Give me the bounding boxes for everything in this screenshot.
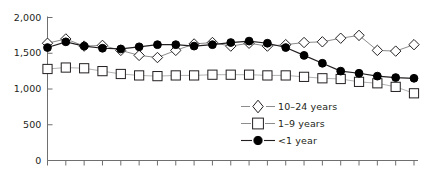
y-axis-tick-label: 2,000 <box>0 13 42 23</box>
line-chart: 2,0001,5001,0005000 10–24 years <box>0 0 422 176</box>
legend-label: 1–9 years <box>278 118 325 129</box>
series-open-square <box>43 63 419 98</box>
chart-series-layer <box>42 30 419 98</box>
legend-label: 10–24 years <box>278 101 337 112</box>
open-square-icon <box>238 115 278 132</box>
legend-label: <1 year <box>278 135 317 146</box>
y-axis-tick-label: 500 <box>0 120 42 130</box>
y-axis-tick-label: 0 <box>0 156 42 166</box>
chart-legend: 10–24 years 1–9 years <1 year <box>238 98 388 149</box>
y-axis-tick-label: 1,000 <box>0 84 42 94</box>
chart-plot-area <box>0 0 422 176</box>
legend-item-10-24-years: 10–24 years <box>238 98 388 115</box>
legend-item-under-1-year: <1 year <box>238 132 388 149</box>
legend-item-1-9-years: 1–9 years <box>238 115 388 132</box>
y-axis-tick-label: 1,500 <box>0 48 42 58</box>
open-diamond-icon <box>238 98 278 115</box>
filled-circle-icon <box>238 132 278 149</box>
